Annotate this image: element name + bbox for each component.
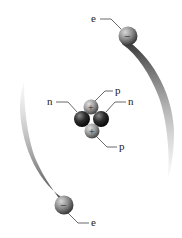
label-electron-top: e [91, 12, 96, 24]
label-neutron-right: n [128, 95, 134, 107]
electron-top-charge: − [124, 30, 130, 42]
atom-diagram: + + − − e e p n n p [0, 0, 182, 238]
leader-neutron-right [106, 102, 126, 112]
leader-electron-top [100, 19, 121, 29]
leader-proton-bottom [95, 135, 117, 147]
proton-bottom-charge: + [89, 126, 95, 137]
electron-trail-bottom [20, 82, 68, 210]
leader-proton-top [95, 91, 113, 101]
proton-top-charge: + [88, 102, 94, 113]
electron-trail-top [122, 38, 174, 178]
electron-bottom-charge: − [60, 199, 66, 211]
leader-electron-bottom [68, 213, 89, 223]
label-electron-bottom: e [91, 216, 96, 228]
label-proton-top: p [115, 84, 121, 96]
label-neutron-left: n [47, 95, 53, 107]
label-proton-bottom: p [119, 140, 125, 152]
leader-neutron-left [56, 102, 77, 112]
